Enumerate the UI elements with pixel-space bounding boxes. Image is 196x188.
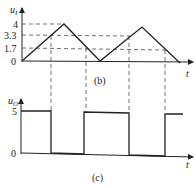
x-axis-b (22, 61, 193, 62)
caption-c: (c) (92, 172, 103, 184)
square-waveform (21, 111, 183, 156)
y-tick-0: 0 (11, 56, 16, 67)
waveform-diagram: 4 3.3 1.7 0 uI t (b) 5 0 uO t (c) (0, 0, 196, 188)
y-axis-label-c: uO (8, 95, 18, 108)
caption-b: (b) (94, 75, 106, 87)
y-tick-3.3: 3.3 (4, 30, 17, 41)
y-tick-0-c: 0 (11, 148, 16, 159)
vertical-guides (51, 36, 165, 113)
x-axis-label-c: t (186, 159, 189, 170)
x-axis-label-b: t (186, 68, 189, 79)
x-axis-c (21, 153, 193, 157)
y-tick-1.7: 1.7 (4, 43, 17, 54)
ref-line-1.7 (22, 48, 166, 50)
triangle-waveform (22, 24, 180, 63)
y-axis-label-b: uI (10, 4, 18, 17)
y-tick-4: 4 (13, 19, 18, 30)
